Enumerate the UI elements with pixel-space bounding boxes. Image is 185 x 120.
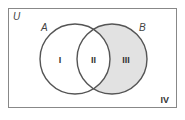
set-b-label: B — [139, 22, 146, 33]
venn-diagram: U A B I II III IV — [0, 0, 185, 120]
region-i-label: I — [59, 55, 62, 65]
region-iii-label: III — [122, 55, 130, 65]
universe-label: U — [13, 11, 21, 22]
region-iv-label: IV — [160, 95, 169, 105]
set-a-label: A — [40, 22, 48, 33]
region-ii-label: II — [91, 55, 96, 65]
